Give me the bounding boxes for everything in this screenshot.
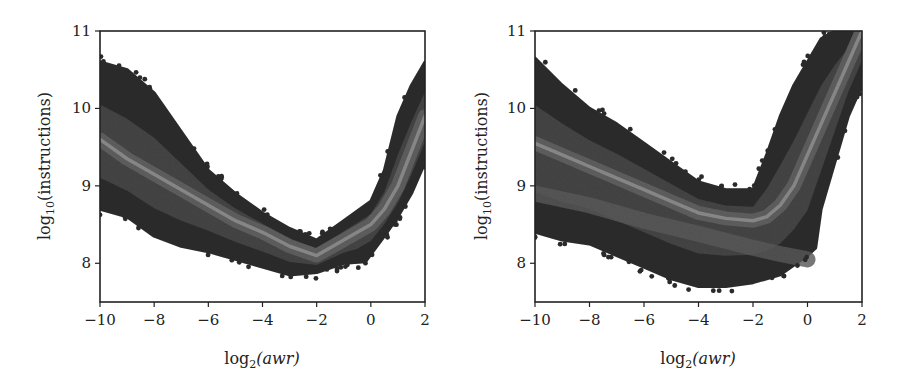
outlier-bin: [717, 288, 722, 293]
outlier-bin: [770, 275, 775, 280]
outlier-bin: [392, 222, 397, 227]
outlier-bin: [303, 232, 308, 237]
outlier-bin: [827, 32, 832, 37]
outlier-bin: [696, 177, 701, 182]
left-y-ticks: 891011: [72, 22, 100, 272]
outlier-bin: [378, 173, 383, 178]
outlier-bin: [719, 184, 724, 189]
outlier-bin: [206, 253, 211, 258]
x-tick-label: −2: [742, 311, 764, 329]
outlier-bin: [686, 287, 691, 292]
outlier-bin: [314, 276, 319, 281]
outlier-bin: [600, 108, 605, 113]
outlier-bin: [855, 94, 860, 99]
left-x-ticks: −10−8−6−4−202: [84, 302, 430, 329]
outlier-bin: [288, 275, 293, 280]
outlier-bin: [803, 257, 808, 262]
outlier-bin: [667, 280, 672, 285]
outlier-bin: [335, 269, 340, 274]
outlier-bin: [324, 267, 329, 272]
outlier-bin: [136, 226, 141, 231]
outlier-bin: [747, 187, 752, 192]
outlier-bin: [805, 53, 810, 58]
outlier-bin: [649, 274, 654, 279]
outlier-bin: [265, 212, 270, 217]
outlier-bin: [601, 251, 606, 256]
right-y-ticks: 891011: [507, 22, 535, 272]
x-tick-label: −4: [687, 311, 709, 329]
outlier-bin: [543, 60, 548, 65]
outlier-bin: [117, 63, 122, 68]
outlier-bin: [262, 207, 267, 212]
outlier-bin: [138, 75, 143, 80]
outlier-bin: [363, 261, 368, 266]
outlier-bin: [205, 164, 210, 169]
outlier-bin: [384, 232, 389, 237]
x-tick-label: 0: [803, 311, 813, 329]
outlier-bin: [122, 214, 127, 219]
outlier-bin: [356, 265, 361, 270]
outlier-bin: [370, 252, 375, 257]
x-tick-label: −4: [251, 311, 273, 329]
x-tick-label: −2: [306, 311, 328, 329]
outlier-bin: [134, 70, 139, 75]
outlier-bin: [101, 59, 106, 64]
outlier-bin: [638, 269, 643, 274]
figure: −10−8−6−4−202 891011 log2(awr) log10(ins…: [0, 0, 899, 389]
outlier-bin: [756, 166, 761, 171]
outlier-bin: [760, 158, 765, 163]
y-tick-label: 10: [72, 99, 91, 117]
outlier-bin: [192, 146, 197, 151]
left-x-axis-label: log2(awr): [224, 349, 299, 371]
outlier-bin: [672, 283, 677, 288]
outlier-bin: [280, 274, 285, 279]
outlier-bin: [662, 150, 667, 155]
x-tick-label: −8: [143, 311, 165, 329]
outlier-bin: [562, 242, 567, 247]
outlier-bin: [801, 62, 806, 67]
outlier-bin: [402, 95, 407, 100]
outlier-bin: [733, 182, 738, 187]
x-tick-label: 2: [420, 311, 430, 329]
right-chart-panel: −10−8−6−4−202 891011 log2(awr) log10(ins…: [472, 22, 867, 371]
outlier-bin: [403, 204, 408, 209]
outlier-bin: [765, 148, 770, 153]
outlier-bin: [558, 242, 563, 247]
right-x-axis-label: log2(awr): [660, 349, 735, 371]
x-tick-label: −6: [197, 311, 219, 329]
outlier-bin: [711, 288, 716, 293]
outlier-bin: [345, 262, 350, 267]
outlier-bin: [219, 174, 224, 179]
x-tick-label: −8: [578, 311, 600, 329]
outlier-bin: [729, 289, 734, 294]
outlier-bin: [237, 260, 242, 265]
x-tick-label: −10: [519, 311, 551, 329]
y-tick-label: 10: [507, 99, 526, 117]
y-tick-label: 11: [72, 22, 91, 40]
outlier-bin: [142, 77, 147, 82]
outlier-bin: [795, 263, 800, 268]
left-chart-panel: −10−8−6−4−202 891011 log2(awr) log10(ins…: [35, 22, 430, 371]
outlier-bin: [843, 128, 848, 133]
x-tick-label: −10: [84, 311, 116, 329]
outlier-bin: [328, 226, 333, 231]
outlier-bin: [752, 183, 757, 188]
outlier-bin: [609, 255, 614, 260]
outlier-bin: [773, 127, 778, 132]
y-tick-label: 8: [516, 254, 526, 272]
outlier-bin: [854, 23, 859, 28]
right-y-axis-label: log10(instructions): [472, 92, 494, 240]
x-tick-label: 2: [857, 311, 867, 329]
y-tick-label: 11: [507, 22, 526, 40]
y-tick-label: 9: [81, 177, 91, 195]
left-hexbin-density: [98, 54, 427, 281]
outlier-bin: [398, 215, 403, 220]
outlier-bin: [782, 274, 787, 279]
outlier-bin: [823, 34, 828, 39]
outlier-bin: [670, 156, 675, 161]
outlier-bin: [298, 229, 303, 234]
outlier-bin: [321, 231, 326, 236]
y-tick-label: 8: [81, 254, 91, 272]
outlier-bin: [235, 191, 240, 196]
outlier-bin: [683, 169, 688, 174]
